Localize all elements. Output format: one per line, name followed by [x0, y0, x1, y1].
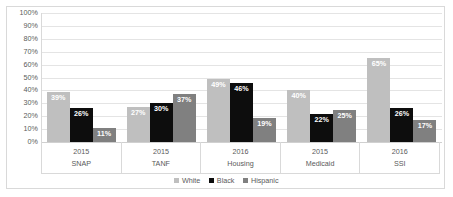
bar-value-label: 65% [367, 60, 390, 67]
x-axis-year-label: 2016 [392, 148, 408, 155]
x-axis-year-label: 2015 [153, 148, 169, 155]
bar-group: 49%46%19% [201, 13, 281, 142]
bar[interactable]: 19% [253, 118, 276, 143]
bar-group: 65%26%17% [362, 13, 442, 142]
bar-value-label: 22% [310, 116, 333, 123]
x-axis-program-label: Medicaid [306, 160, 335, 167]
x-axis-program-label: Housing [227, 160, 253, 167]
x-axis-category-cell: 2015TANF [121, 142, 201, 174]
x-axis-year-label: 2016 [232, 148, 248, 155]
bar-value-label: 26% [390, 110, 413, 117]
chart-legend: WhiteBlackHispanic [7, 177, 446, 184]
bar-value-label: 37% [173, 96, 196, 103]
bar[interactable]: 17% [413, 120, 436, 142]
x-axis-category-cell: 2015SNAP [41, 142, 121, 174]
bar-value-label: 19% [253, 120, 276, 127]
y-axis-tick-label: 20% [24, 113, 38, 120]
x-axis-year-label: 2015 [73, 148, 89, 155]
legend-item-white[interactable]: White [174, 177, 200, 184]
x-axis-program-label: SSI [394, 160, 406, 167]
x-axis-category-cell: 2015Medicaid [280, 142, 360, 174]
bar-value-label: 25% [333, 112, 356, 119]
x-axis-category-table: 2015SNAP2015TANF2016Housing2015Medicaid2… [41, 142, 440, 174]
y-axis: 100%90%80%70%60%50%40%30%20%10%0% [7, 7, 41, 142]
bar-value-label: 46% [230, 85, 253, 92]
bar-value-label: 39% [47, 94, 70, 101]
bar[interactable]: 39% [47, 92, 70, 142]
y-axis-tick-label: 50% [24, 74, 38, 81]
x-axis-program-label: SNAP [72, 160, 92, 167]
legend-swatch-icon [174, 178, 179, 183]
y-axis-tick-label: 80% [24, 35, 38, 42]
bar-value-label: 27% [127, 109, 150, 116]
bars-layer: 39%26%11%27%30%37%49%46%19%40%22%25%65%2… [41, 7, 442, 142]
bar[interactable]: 26% [70, 108, 93, 142]
legend-label: White [182, 177, 200, 184]
legend-label: Hispanic [251, 177, 279, 184]
x-axis-category-cell: 2016SSI [359, 142, 440, 174]
legend-swatch-icon [243, 178, 248, 183]
bar[interactable]: 46% [230, 83, 253, 142]
y-axis-tick-label: 30% [24, 100, 38, 107]
x-axis-program-label: TANF [152, 160, 170, 167]
bar-value-label: 17% [413, 122, 436, 129]
x-axis-year-label: 2015 [312, 148, 328, 155]
bar[interactable]: 27% [127, 107, 150, 142]
bar[interactable]: 22% [310, 114, 333, 142]
x-axis-category-cell: 2016Housing [200, 142, 280, 174]
y-axis-tick-label: 40% [24, 87, 38, 94]
bar[interactable]: 25% [333, 110, 356, 142]
legend-item-hispanic[interactable]: Hispanic [243, 177, 278, 184]
bar-value-label: 49% [207, 81, 230, 88]
chart-container: 100%90%80%70%60%50%40%30%20%10%0% 39%26%… [6, 6, 445, 189]
bar[interactable]: 11% [93, 128, 116, 142]
y-axis-tick-label: 10% [24, 125, 38, 132]
bar-fill [367, 58, 390, 142]
bar[interactable]: 37% [173, 94, 196, 142]
bar-group: 27%30%37% [121, 13, 201, 142]
bar[interactable]: 30% [150, 103, 173, 142]
bar-group: 39%26%11% [41, 13, 121, 142]
bar-value-label: 11% [93, 130, 116, 137]
plot-region: 100%90%80%70%60%50%40%30%20%10%0% 39%26%… [7, 7, 446, 142]
bar[interactable]: 65% [367, 58, 390, 142]
bar[interactable]: 49% [207, 79, 230, 142]
y-axis-tick-label: 100% [20, 9, 38, 16]
y-axis-tick-label: 90% [24, 22, 38, 29]
legend-swatch-icon [209, 178, 214, 183]
legend-item-black[interactable]: Black [209, 177, 234, 184]
bar[interactable]: 40% [287, 90, 310, 142]
y-axis-tick-label: 70% [24, 48, 38, 55]
bar-value-label: 26% [70, 110, 93, 117]
bar-value-label: 40% [287, 92, 310, 99]
legend-label: Black [217, 177, 235, 184]
bar[interactable]: 26% [390, 108, 413, 142]
y-axis-tick-label: 0% [28, 138, 38, 145]
bar-value-label: 30% [150, 105, 173, 112]
bar-group: 40%22%25% [282, 13, 362, 142]
y-axis-tick-label: 60% [24, 61, 38, 68]
